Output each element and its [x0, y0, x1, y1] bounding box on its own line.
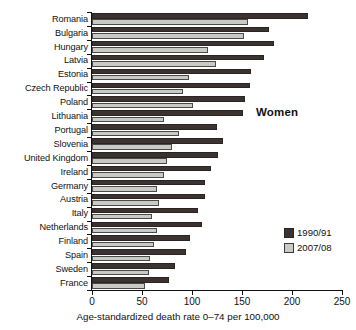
bar-2007: [92, 89, 183, 95]
x-axis-tick: [142, 290, 143, 295]
legend-item: 1990/91: [284, 226, 332, 239]
y-axis-tick: [87, 54, 92, 55]
y-axis-tick: [87, 26, 92, 27]
legend-swatch-light: [284, 243, 294, 253]
x-axis-title: Age-standardized death rate 0–74 per 100…: [0, 311, 356, 322]
x-axis-tick: [192, 290, 193, 295]
bar-1990: [92, 235, 190, 241]
legend-swatch-dark: [284, 228, 294, 238]
x-axis-tick: [92, 290, 93, 295]
x-axis-tick: [292, 290, 293, 295]
bar-2007: [92, 283, 145, 289]
bar-2007: [92, 242, 154, 248]
category-label: United Kingdom: [0, 153, 88, 163]
category-label: Austria: [0, 194, 88, 204]
y-axis-tick: [87, 123, 92, 124]
y-axis-tick: [87, 234, 92, 235]
y-axis-tick: [87, 40, 92, 41]
bar-2007: [92, 61, 216, 67]
category-axis-labels: RomaniaBulgariaHungaryLatviaEstoniaCzech…: [0, 12, 88, 290]
bar-1990: [92, 152, 218, 158]
bar-1990: [92, 222, 202, 228]
y-axis-tick: [87, 193, 92, 194]
category-label: Netherlands: [0, 222, 88, 232]
legend: 1990/912007/08: [284, 226, 332, 256]
x-axis-line: [92, 290, 343, 291]
x-axis-tick-label: 250: [322, 296, 356, 308]
bar-1990: [92, 69, 251, 75]
bar-2007: [92, 172, 164, 178]
y-axis-tick: [87, 165, 92, 166]
category-label: Sweden: [0, 264, 88, 274]
bar-2007: [92, 200, 159, 206]
bar-2007: [92, 228, 157, 234]
legend-item: 2007/08: [284, 241, 332, 254]
category-label: Finland: [0, 236, 88, 246]
category-label: Estonia: [0, 69, 88, 79]
x-axis-tick-label: 100: [172, 296, 212, 308]
bar-2007: [92, 117, 164, 123]
bar-2007: [92, 131, 179, 137]
x-axis-tick: [242, 290, 243, 295]
y-axis-tick: [87, 95, 92, 96]
bar-2007: [92, 19, 248, 25]
bar-2007: [92, 158, 167, 164]
legend-label: 2007/08: [297, 243, 332, 253]
legend-label: 1990/91: [297, 228, 332, 238]
bar-1990: [92, 138, 223, 144]
bar-2007: [92, 256, 150, 262]
bar-2007: [92, 103, 193, 109]
bar-1990: [92, 110, 243, 116]
bar-chart: RomaniaBulgariaHungaryLatviaEstoniaCzech…: [0, 0, 356, 330]
y-axis-tick: [87, 179, 92, 180]
x-axis-tick: [342, 290, 343, 295]
y-axis-tick: [87, 207, 92, 208]
bar-2007: [92, 144, 172, 150]
category-label: Spain: [0, 250, 88, 260]
bar-2007: [92, 75, 189, 81]
category-label: Lithuania: [0, 111, 88, 121]
category-label: Slovenia: [0, 139, 88, 149]
x-axis-tick-label: 150: [222, 296, 262, 308]
category-label: Ireland: [0, 167, 88, 177]
bar-1990: [92, 124, 217, 130]
x-axis-tick-label: 50: [122, 296, 162, 308]
bar-1990: [92, 194, 205, 200]
category-label: Bulgaria: [0, 28, 88, 38]
bar-1990: [92, 83, 250, 89]
bar-1990: [92, 166, 211, 172]
category-label: Hungary: [0, 42, 88, 52]
bar-1990: [92, 249, 186, 255]
panel-title: Women: [256, 106, 298, 118]
y-axis-tick: [87, 276, 92, 277]
bar-1990: [92, 55, 264, 61]
category-label: Czech Republic: [0, 83, 88, 93]
bar-2007: [92, 186, 157, 192]
category-label: Poland: [0, 97, 88, 107]
bar-2007: [92, 47, 208, 53]
y-axis-tick: [87, 262, 92, 263]
y-axis-tick: [87, 68, 92, 69]
y-axis-tick: [87, 12, 92, 13]
y-axis-tick: [87, 137, 92, 138]
bar-1990: [92, 208, 198, 214]
category-label: Latvia: [0, 55, 88, 65]
bar-1990: [92, 180, 205, 186]
category-label: Portugal: [0, 125, 88, 135]
y-axis-tick: [87, 248, 92, 249]
x-axis-tick-label: 200: [272, 296, 312, 308]
y-axis-tick: [87, 82, 92, 83]
y-axis-tick: [87, 109, 92, 110]
y-axis-tick: [87, 221, 92, 222]
bar-2007: [92, 33, 244, 39]
x-axis-tick-label: 0: [72, 296, 112, 308]
bar-1990: [92, 263, 175, 269]
y-axis-tick: [87, 151, 92, 152]
bar-1990: [92, 13, 308, 19]
bar-2007: [92, 270, 149, 276]
bar-1990: [92, 277, 169, 283]
category-label: Germany: [0, 181, 88, 191]
category-label: Romania: [0, 14, 88, 24]
bar-1990: [92, 96, 245, 102]
y-axis-tick: [87, 290, 92, 291]
